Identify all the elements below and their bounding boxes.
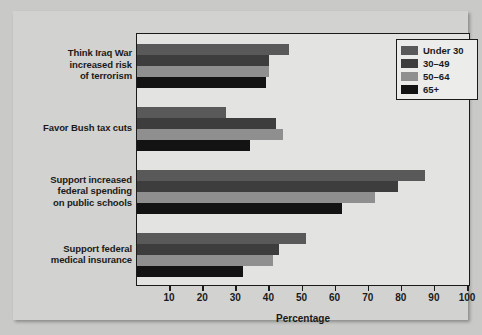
chart-legend: Under 3030–4950–6465+	[396, 39, 478, 100]
x-tick	[202, 286, 204, 291]
x-tick	[268, 286, 270, 291]
x-tick	[401, 286, 403, 291]
x-axis-title: Percentage	[136, 313, 470, 324]
x-tick	[335, 286, 337, 291]
category-label-line: Think Iraq War	[20, 47, 132, 59]
bar	[137, 203, 342, 214]
bar	[137, 55, 269, 66]
x-tick-label: 50	[296, 292, 307, 303]
legend-item: 65+	[401, 83, 472, 95]
category-axis-labels: Think Iraq Warincreased riskof terrorism…	[17, 33, 132, 286]
category-label: Favor Bush tax cuts	[20, 122, 132, 134]
bar	[137, 170, 425, 181]
category-label-line: Favor Bush tax cuts	[20, 122, 132, 134]
category-label-line: of terrorism	[20, 70, 132, 82]
legend-label: 65+	[423, 84, 439, 95]
bar	[137, 44, 289, 55]
bar	[137, 66, 269, 77]
legend-swatch	[401, 59, 418, 68]
x-tick-label: 40	[263, 292, 274, 303]
x-tick	[368, 286, 370, 291]
x-tick	[434, 286, 436, 291]
bar	[137, 255, 273, 266]
bar	[137, 244, 279, 255]
legend-swatch	[401, 85, 418, 94]
bar	[137, 140, 250, 151]
category-label: Support federalmedical insurance	[20, 243, 132, 266]
x-tick-label: 100	[459, 292, 476, 303]
x-tick	[235, 286, 237, 291]
category-label-line: increased risk	[20, 59, 132, 71]
legend-label: 50–64	[423, 71, 449, 82]
bar	[137, 192, 375, 203]
legend-label: Under 30	[423, 45, 464, 56]
x-tick-label: 70	[362, 292, 373, 303]
x-tick-label: 80	[395, 292, 406, 303]
x-tick-label: 60	[329, 292, 340, 303]
legend-item: Under 30	[401, 44, 472, 56]
category-label-line: on public schools	[20, 197, 132, 209]
legend-item: 50–64	[401, 70, 472, 82]
x-tick-label: 30	[230, 292, 241, 303]
chart-panel: Think Iraq Warincreased riskof terrorism…	[13, 11, 468, 320]
x-tick	[302, 286, 304, 291]
legend-label: 30–49	[423, 58, 449, 69]
x-tick-label: 20	[197, 292, 208, 303]
legend-item: 30–49	[401, 57, 472, 69]
bar	[137, 233, 306, 244]
category-label: Support increasedfederal spendingon publ…	[20, 174, 132, 209]
bar	[137, 107, 226, 118]
figure: Think Iraq Warincreased riskof terrorism…	[0, 0, 482, 335]
bar	[137, 266, 243, 277]
x-tick-label: 90	[428, 292, 439, 303]
bar	[137, 77, 266, 88]
category-label-line: medical insurance	[20, 254, 132, 266]
category-label: Think Iraq Warincreased riskof terrorism	[20, 47, 132, 82]
category-label-line: federal spending	[20, 185, 132, 197]
legend-swatch	[401, 46, 418, 55]
bar	[137, 181, 398, 192]
x-tick	[467, 286, 469, 291]
bar	[137, 118, 276, 129]
x-tick	[169, 286, 171, 291]
x-tick-label: 10	[164, 292, 175, 303]
category-label-line: Support federal	[20, 243, 132, 255]
legend-swatch	[401, 72, 418, 81]
bar	[137, 129, 283, 140]
category-label-line: Support increased	[20, 174, 132, 186]
